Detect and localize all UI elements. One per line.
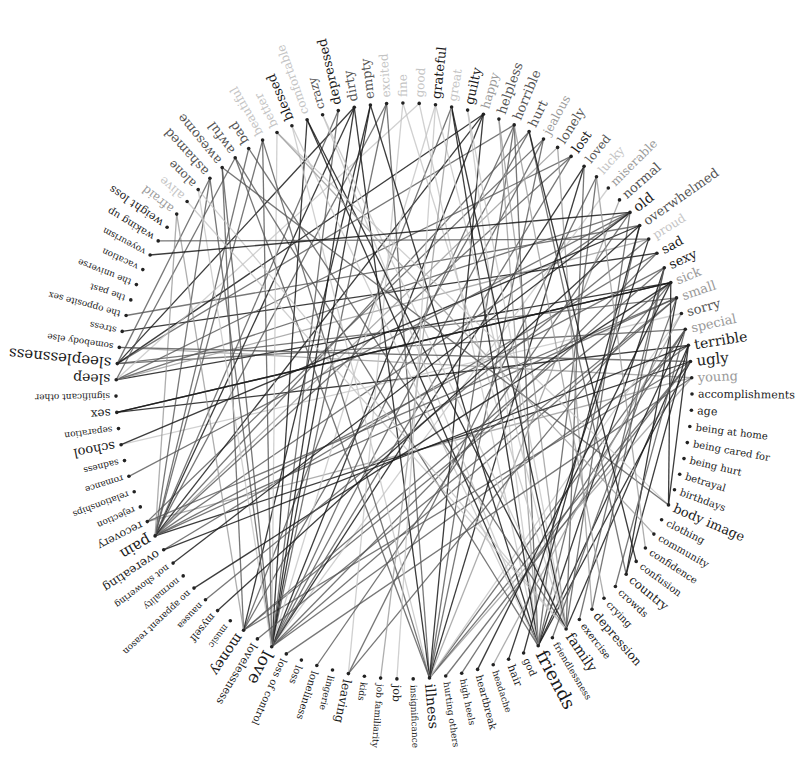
- node-label: excited: [377, 53, 394, 98]
- node-label: job: [390, 683, 403, 702]
- node-dot: [556, 146, 560, 150]
- node-dot: [644, 546, 648, 550]
- node-label: being at home: [695, 422, 768, 442]
- node-dot: [261, 138, 265, 142]
- node-label: accomplishments: [698, 388, 795, 402]
- node-dot: [337, 109, 341, 113]
- node-dot: [652, 532, 656, 536]
- node-dot: [678, 473, 682, 477]
- node-dot: [275, 131, 279, 135]
- node-label: ugly: [695, 348, 730, 369]
- node-dot: [123, 459, 127, 463]
- node-dot: [491, 663, 495, 667]
- radial-word-network: accomplishmentsagebeing at homebeing car…: [0, 0, 796, 781]
- node-dot: [690, 409, 694, 413]
- node-label: separation: [64, 424, 114, 440]
- node-dot: [315, 664, 319, 668]
- connection-line: [272, 188, 609, 647]
- node-dot: [165, 225, 169, 229]
- node-dot: [667, 503, 671, 507]
- node-dot: [347, 672, 351, 676]
- connection-line: [244, 268, 665, 631]
- node-dot: [690, 376, 694, 380]
- node-dot: [564, 627, 568, 631]
- node-label: young: [696, 368, 738, 385]
- node-dot: [115, 411, 119, 415]
- node-dot: [536, 644, 540, 648]
- node-label: illness: [422, 683, 442, 729]
- node-dot: [522, 651, 526, 655]
- node-label: loss: [287, 664, 304, 686]
- node-label: lingerie: [317, 675, 335, 712]
- node-dot: [663, 266, 667, 270]
- node-dot: [673, 488, 677, 492]
- node-dot: [634, 560, 638, 564]
- node-dot: [614, 585, 618, 589]
- node-label: hurting others: [442, 681, 461, 748]
- node-dot: [578, 618, 582, 622]
- node-dot: [417, 102, 421, 106]
- connection-line: [129, 212, 630, 476]
- node-dot: [185, 200, 189, 204]
- node-dot: [204, 598, 208, 602]
- node-dot: [618, 198, 622, 202]
- node-dot: [353, 106, 357, 110]
- node-label: sadness: [82, 457, 120, 476]
- node-dot: [675, 296, 679, 300]
- node-dot: [175, 212, 179, 216]
- node-dot: [590, 607, 594, 611]
- node-dot: [285, 652, 289, 656]
- node-dot: [628, 211, 632, 215]
- node-dot: [117, 427, 121, 431]
- node-dot: [444, 674, 448, 678]
- node-dot: [385, 102, 389, 106]
- node-label: sleep: [73, 370, 111, 387]
- node-dot: [120, 330, 124, 334]
- node-dot: [684, 328, 688, 332]
- node-dot: [687, 344, 691, 348]
- node-dot: [229, 619, 233, 623]
- node-dot: [379, 676, 383, 680]
- node-dot: [401, 101, 405, 105]
- node-dot: [141, 268, 145, 272]
- node-dot: [220, 166, 224, 170]
- node-label: romance: [84, 473, 125, 494]
- node-dot: [124, 314, 128, 318]
- node-dot: [116, 362, 120, 366]
- node-label: school: [72, 438, 116, 461]
- node-dot: [602, 596, 606, 600]
- node-dot: [507, 658, 511, 662]
- node-dot: [242, 628, 246, 632]
- node-label: fine: [396, 74, 410, 97]
- node-label: high heels: [458, 678, 477, 726]
- node-dot: [482, 112, 486, 116]
- node-label: stress: [88, 320, 117, 335]
- node-dot: [146, 520, 150, 524]
- node-dot: [607, 186, 611, 190]
- node-dot: [466, 108, 470, 112]
- connection-lines: [116, 103, 692, 679]
- connection-line: [272, 120, 307, 647]
- node-dot: [119, 443, 123, 447]
- node-dot: [582, 165, 586, 169]
- node-label: dirty: [340, 69, 360, 103]
- node-dot: [208, 176, 212, 180]
- node-dot: [686, 441, 690, 445]
- node-dot: [647, 237, 651, 241]
- node-label: kids: [356, 682, 369, 702]
- node-dot: [129, 298, 133, 302]
- connection-line: [348, 103, 403, 674]
- node-dot: [114, 394, 118, 398]
- node-dot: [118, 346, 122, 350]
- node-dot: [305, 118, 309, 122]
- node-labels: accomplishmentsagebeing at homebeing car…: [8, 37, 795, 749]
- node-dot: [680, 312, 684, 316]
- node-dot: [660, 518, 664, 522]
- node-dot: [682, 457, 686, 461]
- node-dot: [527, 130, 531, 134]
- node-dot: [624, 573, 628, 577]
- node-label: job familiarity: [370, 683, 385, 749]
- node-label: leaving: [332, 678, 354, 724]
- node-dot: [114, 378, 118, 382]
- node-dot: [162, 548, 166, 552]
